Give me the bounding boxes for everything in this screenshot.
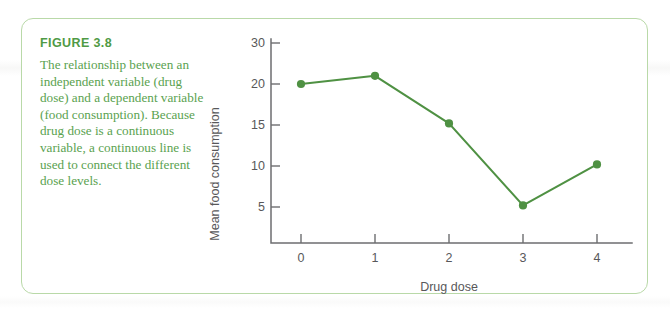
x-tick-label-0: 0 xyxy=(298,251,305,265)
chart-canvas: Mean food consumption 30 20 15 10 5 xyxy=(197,19,649,295)
data-point xyxy=(371,72,379,80)
x-tick-label-3: 3 xyxy=(520,251,527,265)
data-point xyxy=(519,201,527,209)
data-point xyxy=(593,160,601,168)
axis-lines xyxy=(271,39,632,243)
y-tick-label-10: 10 xyxy=(251,159,265,173)
series-markers-group xyxy=(297,72,601,210)
y-axis-title: Mean food consumption xyxy=(208,107,222,240)
scan-banding-bottom xyxy=(0,296,670,308)
line-chart: Mean food consumption 30 20 15 10 5 xyxy=(197,19,649,295)
figure-caption-text: The relationship between an independent … xyxy=(40,57,212,190)
data-point xyxy=(445,119,453,127)
x-axis-title: Drug dose xyxy=(420,280,478,294)
y-tick-marks xyxy=(271,43,280,207)
figure-caption-block: FIGURE 3.8 The relationship between an i… xyxy=(40,36,212,190)
data-point xyxy=(297,80,305,88)
y-tick-label-20: 20 xyxy=(251,77,265,91)
y-tick-label-15: 15 xyxy=(251,118,265,132)
figure-number-label: FIGURE 3.8 xyxy=(40,36,212,50)
x-tick-label-4: 4 xyxy=(594,251,601,265)
x-tick-label-1: 1 xyxy=(372,251,379,265)
x-tick-marks xyxy=(301,234,597,243)
y-tick-label-30: 30 xyxy=(251,36,265,50)
figure-box: FIGURE 3.8 The relationship between an i… xyxy=(21,18,648,294)
y-tick-label-5: 5 xyxy=(258,200,265,214)
series-line-mean-food-consumption xyxy=(301,76,597,206)
x-tick-label-2: 2 xyxy=(446,251,453,265)
